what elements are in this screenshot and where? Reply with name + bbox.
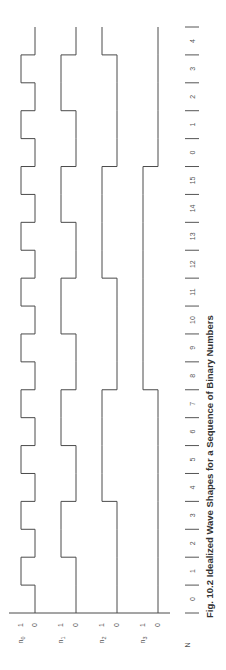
n-axis-value: 4 bbox=[189, 485, 196, 489]
level-labels: 10101010 bbox=[17, 623, 161, 627]
n-axis-value: 2 bbox=[189, 95, 196, 99]
n-axis-value: 12 bbox=[189, 260, 196, 268]
n-axis-value: 0 bbox=[189, 597, 196, 601]
n-axis-value: 6 bbox=[189, 430, 196, 434]
level-low-label-n0: 0 bbox=[31, 623, 38, 627]
waveform-n1 bbox=[61, 27, 76, 613]
waveform-n2 bbox=[102, 27, 117, 613]
n-axis-value: 10 bbox=[189, 316, 196, 324]
level-low-label-n2: 0 bbox=[113, 623, 120, 627]
signal-label-n2: n2 bbox=[98, 637, 107, 644]
n-axis: 012345678910111213141501234 bbox=[185, 27, 199, 613]
n-axis-value: 7 bbox=[189, 402, 196, 406]
n-axis-value: 0 bbox=[189, 151, 196, 155]
signal-labels: n0n1n2n3 bbox=[17, 637, 148, 644]
level-high-label-n0: 1 bbox=[17, 623, 24, 627]
n-axis-value: 1 bbox=[189, 123, 196, 127]
level-high-label-n3: 1 bbox=[139, 623, 146, 627]
waveform-n3 bbox=[143, 27, 158, 613]
n-axis-value: 4 bbox=[189, 39, 196, 43]
waveform-n0 bbox=[21, 27, 35, 613]
n-axis-value: 14 bbox=[189, 204, 196, 212]
signal-label-n0: n0 bbox=[17, 637, 26, 644]
binary-waveform-figure: 10101010 n0n1n2n3 0123456789101112131415… bbox=[0, 0, 226, 670]
n-axis-value: 15 bbox=[189, 176, 196, 184]
signal-label-n1: n1 bbox=[57, 637, 66, 644]
level-low-label-n1: 0 bbox=[72, 623, 79, 627]
n-axis-value: 1 bbox=[189, 569, 196, 573]
n-axis-value: 9 bbox=[189, 346, 196, 350]
waveforms bbox=[21, 27, 158, 613]
n-axis-value: 13 bbox=[189, 232, 196, 240]
level-high-label-n2: 1 bbox=[98, 623, 105, 627]
level-high-label-n1: 1 bbox=[57, 623, 64, 627]
n-axis-value: 5 bbox=[189, 457, 196, 461]
n-axis-value: 2 bbox=[189, 541, 196, 545]
figure-caption: Fig. 10.2 Idealized Wave Shapes for a Se… bbox=[204, 315, 215, 618]
n-axis-value: 11 bbox=[189, 288, 196, 295]
n-axis-label: N bbox=[184, 642, 191, 647]
level-low-label-n3: 0 bbox=[154, 623, 161, 627]
n-axis-value: 8 bbox=[189, 374, 196, 378]
signal-label-n3: n3 bbox=[139, 637, 148, 644]
n-axis-value: 3 bbox=[189, 513, 196, 517]
n-axis-value: 3 bbox=[189, 67, 196, 71]
